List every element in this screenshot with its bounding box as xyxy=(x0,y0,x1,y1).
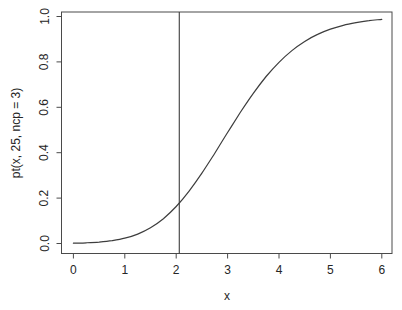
x-tick-label: 3 xyxy=(224,263,231,277)
x-tick-label: 5 xyxy=(327,263,334,277)
y-tick-label: 1.0 xyxy=(38,8,52,25)
x-tick-label: 2 xyxy=(173,263,180,277)
y-tick-label: 0.6 xyxy=(38,99,52,116)
x-tick-label: 6 xyxy=(378,263,385,277)
y-axis-title: pt(x, 25, ncp = 3) xyxy=(9,88,23,178)
x-tick-label: 4 xyxy=(276,263,283,277)
x-tick-label: 1 xyxy=(121,263,128,277)
x-axis-title: x xyxy=(224,289,230,303)
r-plot-figure: 01234560.00.20.40.60.81.0 x pt(x, 25, nc… xyxy=(0,0,402,310)
y-tick-label: 0.8 xyxy=(38,53,52,70)
cdf-curve xyxy=(73,19,381,243)
plot-canvas: 01234560.00.20.40.60.81.0 xyxy=(0,0,402,310)
y-tick-label: 0.2 xyxy=(38,189,52,206)
y-tick-label: 0.4 xyxy=(38,144,52,161)
y-tick-label: 0.0 xyxy=(38,235,52,252)
x-tick-label: 0 xyxy=(70,263,77,277)
